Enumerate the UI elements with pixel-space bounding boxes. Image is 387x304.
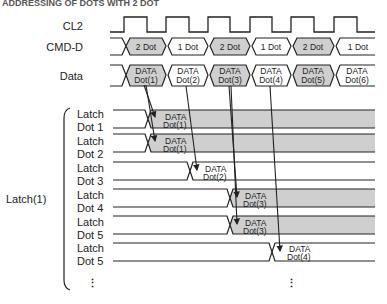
latch-row-4: Latch Dot 4 DATA Dot(3) bbox=[77, 189, 375, 214]
svg-text:Dot 5: Dot 5 bbox=[77, 255, 103, 267]
svg-text:Latch: Latch bbox=[77, 216, 104, 228]
ellipsis-left: ⋮ bbox=[87, 277, 98, 289]
cmd-d-segment: 2 Dot bbox=[303, 42, 324, 52]
svg-text:Dot(4): Dot(4) bbox=[259, 75, 283, 85]
svg-text:Dot(2): Dot(2) bbox=[176, 75, 200, 85]
svg-text:Dot(1): Dot(1) bbox=[134, 75, 158, 85]
latch-row-2: Latch Dot 2 DATA Dot(1) bbox=[77, 134, 375, 160]
svg-text:Dot(1): Dot(1) bbox=[163, 120, 187, 130]
latch-row-6: Latch Dot 5 DATA Dot(4) bbox=[77, 242, 375, 267]
cl2-label: CL2 bbox=[63, 20, 83, 32]
svg-text:Dot(3): Dot(3) bbox=[243, 226, 267, 236]
svg-text:Dot 3: Dot 3 bbox=[77, 175, 103, 187]
cmd-d-segment: 1 Dot bbox=[261, 42, 282, 52]
latch-group-label: Latch(1) bbox=[6, 193, 46, 205]
svg-text:Dot 4: Dot 4 bbox=[77, 202, 103, 214]
clipped-header-text: ADDRESSING OF DOTS WITH 2 DOT bbox=[2, 0, 160, 8]
cmd-d-segment: 1 Dot bbox=[348, 42, 369, 52]
cmd-d-segment: 1 Dot bbox=[178, 42, 199, 52]
svg-text:Dot 5: Dot 5 bbox=[77, 229, 103, 241]
data-bus: DATA Dot(1) DATA Dot(2) DATA Dot(3) DATA… bbox=[110, 65, 375, 86]
svg-text:Dot 1: Dot 1 bbox=[77, 121, 103, 133]
latch-row-1: Latch Dot 1 DATA Dot(1) bbox=[77, 108, 375, 133]
latch-group-brace bbox=[64, 108, 70, 290]
svg-text:Latch: Latch bbox=[77, 242, 104, 254]
svg-text:Dot(3): Dot(3) bbox=[218, 75, 242, 85]
cmd-d-segment: 2 Dot bbox=[220, 42, 241, 52]
svg-text:Latch: Latch bbox=[77, 108, 104, 120]
svg-text:Dot 2: Dot 2 bbox=[77, 148, 103, 160]
cl2-waveform bbox=[110, 17, 375, 32]
timing-diagram: ADDRESSING OF DOTS WITH 2 DOT CL2 CMD-D … bbox=[0, 0, 387, 304]
svg-text:Dot(2): Dot(2) bbox=[203, 172, 227, 182]
svg-text:Dot(6): Dot(6) bbox=[345, 75, 369, 85]
cmd-d-label: CMD-D bbox=[46, 41, 83, 53]
svg-text:Dot(3): Dot(3) bbox=[243, 199, 267, 209]
cmd-d-bus: 2 Dot 1 Dot 2 Dot 1 Dot 2 Dot 1 Dot bbox=[110, 38, 375, 55]
latch-row-3: Latch Dot 3 DATA Dot(2) bbox=[77, 162, 375, 187]
svg-text:Dot(4): Dot(4) bbox=[287, 252, 311, 262]
svg-text:Dot(1): Dot(1) bbox=[163, 144, 187, 154]
svg-text:Dot(5): Dot(5) bbox=[301, 75, 325, 85]
cmd-d-segment: 2 Dot bbox=[136, 42, 157, 52]
svg-text:Latch: Latch bbox=[77, 189, 104, 201]
svg-text:Latch: Latch bbox=[77, 135, 104, 147]
data-label: Data bbox=[60, 70, 84, 82]
latch-row-5: Latch Dot 5 DATA Dot(3) bbox=[77, 216, 375, 241]
ellipsis-right: ⋮ bbox=[286, 277, 297, 289]
svg-text:Latch: Latch bbox=[77, 162, 104, 174]
